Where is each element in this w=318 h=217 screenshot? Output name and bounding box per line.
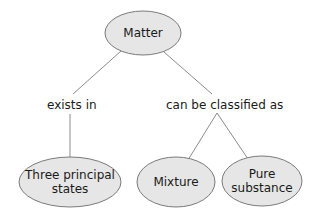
concept-map: Matter exists in can be classified as Th… [0, 0, 318, 217]
edge-label-classified: can be classified as [166, 98, 283, 112]
edge-classified-to-pure [217, 113, 248, 159]
node-pure-substance: Pure substance [222, 156, 302, 206]
node-pure-line1: Pure [249, 167, 276, 181]
node-states-line2: states [52, 182, 89, 196]
edge-label-exists-in: exists in [47, 98, 97, 112]
node-pure-line2: substance [231, 181, 292, 195]
edge-matter-to-exists-in [73, 51, 121, 94]
node-mixture: Mixture [137, 157, 215, 207]
node-mixture-label: Mixture [153, 175, 198, 189]
node-matter: Matter [105, 11, 181, 55]
node-states-line1: Three principal [25, 168, 115, 182]
node-three-principal-states: Three principal states [19, 157, 121, 207]
edge-classified-to-mixture [188, 113, 217, 160]
edge-matter-to-classified [164, 52, 212, 94]
node-matter-label: Matter [123, 26, 162, 40]
